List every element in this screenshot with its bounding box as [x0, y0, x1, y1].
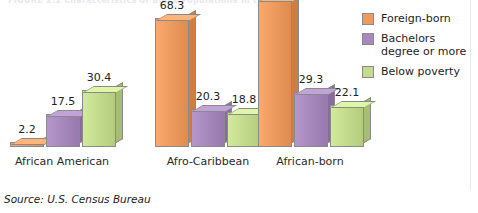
bar-front-face	[294, 92, 328, 147]
bar-front-face	[82, 90, 116, 147]
bar-front-face	[258, 0, 292, 147]
bar-bachelors-degree-or-more: 17.5	[46, 114, 80, 147]
bar-bachelors-degree-or-more: 20.3	[191, 109, 225, 147]
bar-value-label: 68.3	[160, 0, 185, 12]
chart-legend: Foreign-bornBachelors degree or moreBelo…	[362, 12, 474, 85]
legend-item: Foreign-born	[362, 12, 474, 25]
bar-front-face	[330, 105, 364, 147]
bar-foreign-born: 78.5	[258, 0, 292, 147]
bar-foreign-born: 2.2	[10, 142, 44, 147]
bar-front-face	[227, 112, 261, 147]
bar-below-poverty: 30.4	[82, 90, 116, 147]
bar-foreign-born: 68.3	[155, 18, 189, 147]
category-label: African American	[2, 155, 122, 168]
legend-item: Below poverty	[362, 65, 474, 78]
bar-value-label: 30.4	[87, 71, 112, 84]
bar-value-label: 2.2	[18, 123, 36, 136]
legend-item-label: Foreign-born	[381, 12, 451, 25]
legend-item-label: Below poverty	[381, 65, 460, 78]
bar-value-label: 20.3	[196, 90, 221, 103]
legend-swatch-foreign-born	[362, 13, 374, 25]
legend-item-label: Bachelors degree or more	[381, 32, 474, 58]
bar-front-face	[46, 114, 80, 147]
source-note: Source: U.S. Census Bureau	[4, 193, 151, 205]
bar-front-face	[155, 18, 189, 147]
bar-value-label: 29.3	[299, 73, 324, 86]
plot-area: 2.217.530.4African American68.320.318.8A…	[0, 0, 360, 190]
chart-container: FIGURE 2.1 Characteristics of Black Popu…	[0, 0, 478, 213]
bar-below-poverty: 18.8	[227, 112, 261, 147]
bar-below-poverty: 22.1	[330, 105, 364, 147]
bar-value-label: 17.5	[51, 95, 76, 108]
bar-value-label: 18.8	[232, 93, 257, 106]
category-label: African-born	[250, 155, 370, 168]
legend-swatch-below-poverty	[362, 66, 374, 78]
bar-bachelors-degree-or-more: 29.3	[294, 92, 328, 147]
legend-item: Bachelors degree or more	[362, 32, 474, 58]
bar-value-label: 22.1	[335, 86, 360, 99]
legend-swatch-bachelors-degree	[362, 33, 374, 45]
bar-front-face	[191, 109, 225, 147]
